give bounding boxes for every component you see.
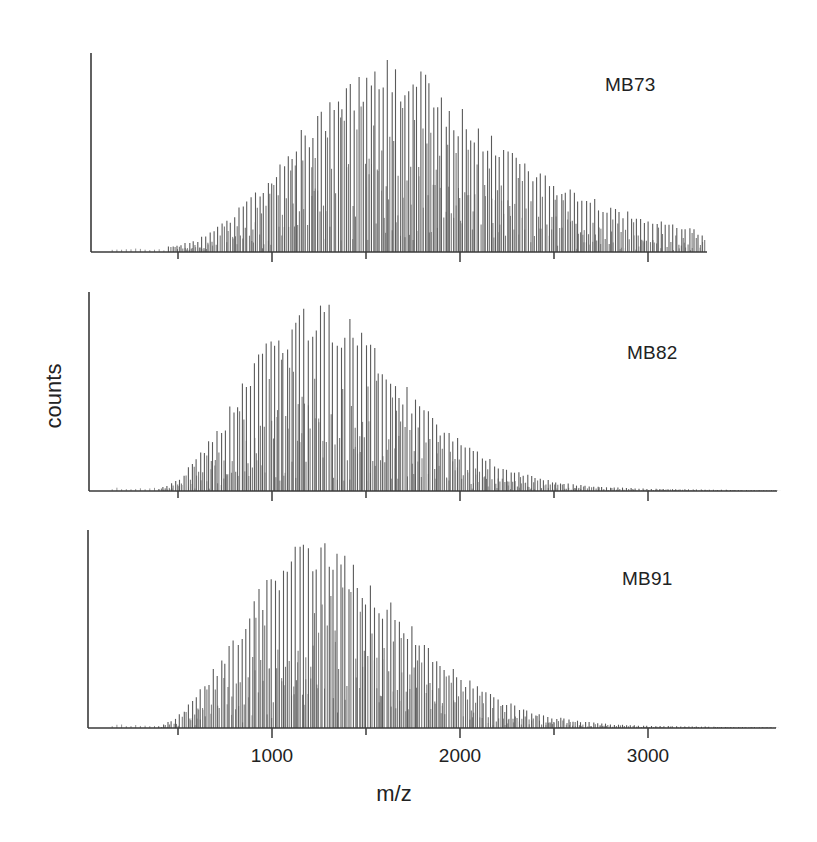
panel-label-mb91: MB91 [622,568,672,590]
x-axis-title: m/z [376,781,411,807]
spectrum-panel-mb91 [88,530,778,738]
mass-spectra-figure: MB73 MB82 MB91 1000 2000 3000 m/z counts [0,0,817,842]
spectrum-panel-mb82 [89,292,780,501]
x-tick-label-3000: 3000 [627,745,669,767]
y-axis-title: counts [41,364,67,429]
x-tick-label-2000: 2000 [439,745,481,767]
panel-label-mb82: MB82 [627,342,677,364]
spectra-plot-area [0,0,817,842]
panel-label-mb73: MB73 [605,74,655,96]
x-tick-label-1000: 1000 [251,745,293,767]
